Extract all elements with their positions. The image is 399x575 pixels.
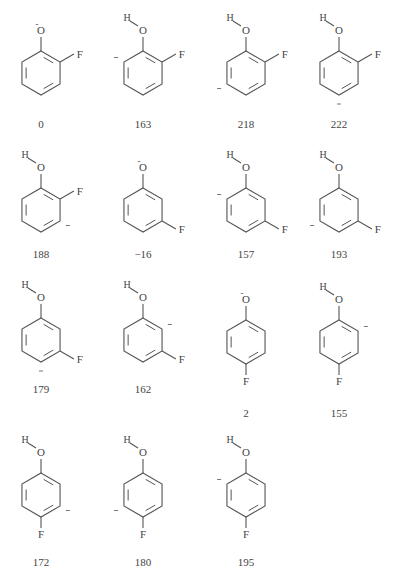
benzene-ring — [320, 51, 358, 95]
double-bond — [342, 57, 352, 62]
energy-value-label: 155 — [331, 407, 348, 419]
o-h-bond — [130, 288, 138, 293]
double-bond — [146, 220, 156, 225]
energy-value-label: 0 — [38, 118, 44, 130]
double-bond — [342, 194, 352, 199]
structure-meta-phenoxide: O-F−16 — [124, 156, 185, 260]
energy-value-label: 222 — [331, 118, 348, 130]
c-f-bond — [162, 351, 176, 359]
double-bond — [44, 350, 54, 355]
energy-value-label: 195 — [238, 556, 255, 568]
structure-meta-C2: OHF162 — [123, 279, 185, 395]
fluorine-atom: F — [336, 375, 342, 387]
o-h-bond — [130, 21, 138, 26]
o-h-bond — [326, 21, 334, 26]
energy-value-label: 2 — [243, 407, 249, 419]
hydrogen-atom: H — [123, 12, 130, 23]
double-bond — [249, 57, 259, 62]
oxygen-atom: O — [335, 293, 343, 305]
fluorine-atom: F — [282, 223, 288, 235]
hydrogen-atom: H — [123, 434, 130, 445]
energy-value-label: 172 — [33, 556, 50, 568]
double-bond — [146, 505, 156, 510]
oxygen-atom: O — [335, 24, 343, 36]
c-f-bond — [265, 221, 279, 229]
benzene-ring — [22, 318, 60, 362]
double-bond — [146, 57, 156, 62]
c-f-bond — [265, 54, 279, 62]
hydrogen-atom: H — [21, 149, 28, 160]
benzene-ring — [227, 320, 265, 364]
oxygen-atom: O — [37, 446, 45, 458]
energy-value-label: 157 — [238, 248, 255, 260]
oxygen-negative-charge: - — [241, 288, 244, 298]
double-bond — [249, 326, 259, 331]
c-f-bond — [60, 54, 74, 62]
structure-ortho-phenoxide: O-F0 — [22, 19, 83, 130]
structure-ortho-C4: OHF222 — [319, 12, 381, 130]
hydrogen-atom: H — [226, 434, 233, 445]
fluorine-atom: F — [243, 528, 249, 540]
structure-para-C2: OHF155 — [319, 281, 367, 419]
fluorine-atom: F — [179, 353, 185, 365]
o-h-bond — [233, 21, 241, 26]
benzene-ring — [320, 188, 358, 232]
double-bond — [44, 57, 54, 62]
benzene-ring — [227, 188, 265, 232]
oxygen-atom: O — [139, 24, 147, 36]
double-bond — [146, 324, 156, 329]
o-h-bond — [326, 290, 334, 295]
double-bond — [44, 479, 54, 484]
c-f-bond — [162, 54, 176, 62]
double-bond — [44, 83, 54, 88]
fluorine-atom: F — [243, 375, 249, 387]
benzene-ring — [22, 188, 60, 232]
double-bond — [249, 220, 259, 225]
fluorine-atom: F — [140, 528, 146, 540]
energy-value-label: 193 — [331, 248, 348, 260]
structure-para-C5: OHF180 — [114, 434, 162, 568]
double-bond — [342, 220, 352, 225]
c-f-bond — [162, 221, 176, 229]
benzene-ring — [22, 473, 60, 517]
hydrogen-atom: H — [319, 149, 326, 160]
fluorine-atom: F — [375, 223, 381, 235]
structure-meta-C4: OHF179 — [21, 279, 83, 395]
structure-para-C3: OHF172 — [21, 434, 69, 568]
benzene-ring — [320, 320, 358, 364]
structure-ortho-C6: OHF163 — [114, 12, 185, 130]
structure-meta-C6: OHF157 — [217, 149, 288, 260]
energy-value-label: 188 — [33, 248, 50, 260]
structure-meta-C5: OHF193 — [310, 149, 381, 260]
double-bond — [249, 479, 259, 484]
hydrogen-atom: H — [21, 279, 28, 290]
benzene-ring — [124, 51, 162, 95]
energy-value-label: 218 — [238, 118, 255, 130]
fluorine-atom: F — [179, 48, 185, 60]
c-f-bond — [60, 351, 74, 359]
double-bond — [249, 352, 259, 357]
oxygen-negative-charge: - — [138, 156, 141, 166]
molecule-grid: O-F0OHF163OHF218OHF222OHF188O-F−16OHF157… — [0, 0, 399, 575]
energy-value-label: 179 — [33, 383, 50, 395]
fluorine-atom: F — [375, 48, 381, 60]
o-h-bond — [233, 158, 241, 163]
fluorine-atom: F — [77, 48, 83, 60]
c-f-bond — [358, 54, 372, 62]
o-h-bond — [233, 443, 241, 448]
fluorine-atom: F — [282, 48, 288, 60]
double-bond — [44, 324, 54, 329]
energy-value-label: 180 — [135, 556, 152, 568]
fluorine-atom: F — [77, 185, 83, 197]
double-bond — [44, 505, 54, 510]
double-bond — [249, 194, 259, 199]
oxygen-atom: O — [242, 446, 250, 458]
double-bond — [342, 83, 352, 88]
structure-para-phenoxide: O-F2 — [227, 288, 265, 419]
oxygen-atom: O — [139, 291, 147, 303]
fluorine-atom: F — [38, 528, 44, 540]
benzene-ring — [124, 318, 162, 362]
c-f-bond — [60, 191, 74, 199]
double-bond — [44, 220, 54, 225]
fluorine-atom: F — [179, 223, 185, 235]
